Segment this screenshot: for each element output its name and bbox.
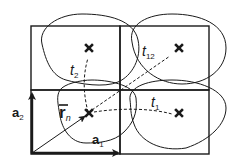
label-a1: a1 bbox=[92, 133, 104, 149]
diagram-canvas bbox=[0, 0, 238, 165]
lattice-diagram: t2 t12 t1 a2 a1 rn bbox=[0, 0, 238, 165]
x-icon bbox=[86, 110, 92, 116]
label-t1-sub: 1 bbox=[155, 103, 159, 112]
label-t12: t12 bbox=[142, 44, 155, 61]
cell-top-left bbox=[31, 26, 120, 90]
label-a2: a2 bbox=[12, 106, 24, 122]
label-rn-sub: n bbox=[66, 113, 71, 123]
x-icon bbox=[176, 45, 182, 51]
label-t1: t1 bbox=[151, 95, 159, 112]
lattice-vectors bbox=[31, 94, 118, 153]
label-t2-sub: 2 bbox=[74, 71, 78, 80]
label-a2-sub: 2 bbox=[19, 113, 23, 122]
label-a1-sub: 1 bbox=[99, 140, 103, 149]
label-rn: rn bbox=[59, 104, 71, 123]
label-rn-main: r bbox=[59, 103, 66, 122]
label-t2: t2 bbox=[70, 63, 78, 80]
label-t12-sub: 12 bbox=[146, 52, 155, 61]
x-icon bbox=[86, 45, 92, 51]
vector-rn bbox=[32, 117, 84, 153]
hopping-t2 bbox=[84, 58, 88, 112]
hopping-t1 bbox=[94, 109, 172, 114]
x-icon bbox=[176, 110, 182, 116]
